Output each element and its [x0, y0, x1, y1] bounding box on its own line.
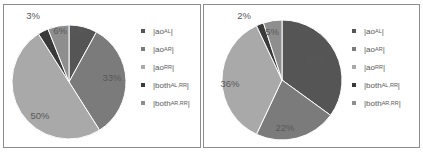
legend-item: |aoRR| [141, 58, 190, 76]
legend-left: |aoAL| |aoAR| |aoRR| |bothAL,RR| |bothAR… [141, 22, 190, 112]
slice-label: 6% [53, 25, 67, 36]
slice-label: 8% [71, 25, 85, 36]
legend-item: |aoRR| [352, 58, 401, 76]
legend-item: |bothAL,RR| [352, 76, 401, 94]
legend-item: |aoAR| [352, 40, 401, 58]
legend-swatch-icon [141, 65, 145, 69]
legend-item: |aoAL| [352, 22, 401, 40]
slice-label: 3% [26, 10, 40, 21]
legend-swatch-icon [141, 83, 145, 87]
legend-swatch-icon [352, 65, 356, 69]
legend-swatch-icon [141, 29, 145, 33]
legend-right: |aoAL| |aoAR| |aoRR| |bothAL,RR| |bothAR… [352, 22, 401, 112]
legend-swatch-icon [352, 47, 356, 51]
slice-label: 2% [237, 10, 251, 21]
legend-swatch-icon [352, 83, 356, 87]
legend-swatch-icon [141, 47, 145, 51]
slice-label: 50% [30, 110, 50, 121]
legend-swatch-icon [352, 101, 356, 105]
legend-swatch-icon [141, 101, 145, 105]
slice-label: 36% [220, 78, 240, 89]
slice-label: 33% [102, 72, 122, 83]
chart-panel-right: 35%22%36%2%5% |aoAL| |aoAR| |aoRR| |both… [203, 4, 420, 148]
slice-label: 5% [265, 26, 279, 37]
chart-panel-left: 8%33%50%3%6% |aoAL| |aoAR| |aoRR| |bothA… [3, 4, 201, 148]
legend-swatch-icon [352, 29, 356, 33]
legend-item: |aoAR| [141, 40, 190, 58]
slice-label: 35% [306, 53, 326, 64]
legend-item: |bothAR,RR| [352, 94, 401, 112]
slice-label: 22% [275, 122, 295, 133]
legend-item: |bothAR,RR| [141, 94, 190, 112]
legend-item: |bothAL,RR| [141, 76, 190, 94]
legend-item: |aoAL| [141, 22, 190, 40]
